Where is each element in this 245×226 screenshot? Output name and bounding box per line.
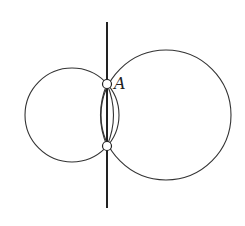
right-circle bbox=[101, 50, 231, 180]
point-b bbox=[103, 142, 112, 151]
point-a bbox=[103, 80, 112, 89]
point-a-label: A bbox=[112, 74, 126, 93]
geometry-diagram: A bbox=[0, 0, 245, 226]
